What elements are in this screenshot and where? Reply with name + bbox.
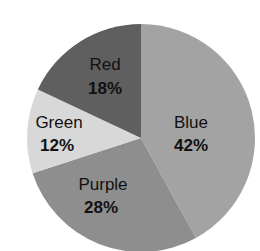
slice-name-purple: Purple [78,175,127,194]
pie-chart-svg: Blue 42% Purple 28% Green 12% Red 18% [0,0,260,251]
slice-name-green: Green [35,113,82,132]
pie-chart: Blue 42% Purple 28% Green 12% Red 18% [0,0,260,251]
slice-name-red: Red [89,55,120,74]
slice-pct-red: 18% [88,79,122,98]
slice-pct-green: 12% [40,136,74,155]
slice-pct-purple: 28% [84,198,118,217]
slice-pct-blue: 42% [174,136,208,155]
slice-name-blue: Blue [174,113,208,132]
